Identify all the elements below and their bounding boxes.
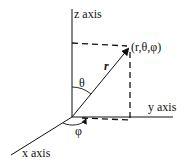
phi-label: φ: [75, 124, 82, 138]
point-label: (r,θ,φ): [131, 40, 161, 54]
spherical-coordinates-diagram: z axis (r,θ,φ) r θ y axis φ x axis: [0, 0, 185, 164]
z-axis-label: z axis: [74, 7, 102, 21]
theta-label: θ: [79, 76, 85, 90]
y-axis-label: y axis: [148, 100, 177, 114]
radius-label: r: [104, 59, 109, 73]
dashed-projection-z: [72, 43, 127, 46]
dashed-projection-xy: [82, 118, 130, 120]
x-axis-label: x axis: [22, 146, 51, 160]
